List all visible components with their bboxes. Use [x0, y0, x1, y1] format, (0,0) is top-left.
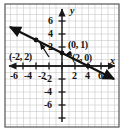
x-tick-label-neg6: -6	[10, 71, 18, 81]
x-axis-label: x	[110, 56, 115, 66]
x-tick-label-2: 2	[72, 71, 77, 81]
point-marker-0-1	[60, 51, 65, 56]
x-tick-label-neg2: -2	[38, 71, 46, 81]
y-tick-label-2: 2	[48, 42, 53, 52]
x-tick-label-6: 6	[98, 71, 103, 81]
y-tick-label-neg4: -4	[44, 87, 52, 97]
y-axis-label: y	[70, 6, 74, 16]
point-marker-2-0	[86, 64, 91, 69]
x-tick-label-4: 4	[85, 71, 90, 81]
y-tick-label-6: 6	[48, 16, 53, 26]
y-tick-label-neg6: -6	[44, 100, 52, 110]
y-tick-label-4: 4	[48, 29, 53, 39]
point-label-0-1: (0, 1)	[68, 40, 88, 50]
point-label-neg2-2: (-2, 2)	[9, 52, 32, 62]
point-label-2-0: (2, 0)	[72, 53, 92, 63]
point-marker-neg2-2	[34, 38, 39, 43]
graph-canvas	[0, 0, 124, 130]
x-tick-label-neg4: -4	[24, 71, 32, 81]
coordinate-graph-figure: y x 6 4 2 -2 -4 -6 -6 -4 -2 2 4 6 (-2, 2…	[0, 0, 124, 130]
